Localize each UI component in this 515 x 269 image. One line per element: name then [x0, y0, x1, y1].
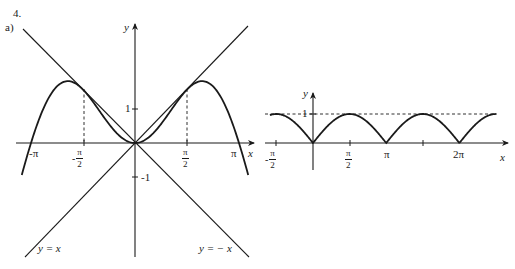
fraction-denominator: 2: [346, 160, 351, 170]
right-x-axis-label: x: [500, 152, 505, 163]
tick-label-y-one: 1: [125, 103, 131, 114]
annotation-y-equals-neg-x: y = − x: [199, 243, 232, 254]
minus-sign: -: [72, 153, 75, 164]
fraction-denominator: 2: [77, 159, 82, 169]
annotation-y-equals-x: y = x: [38, 243, 61, 254]
left-chart: [16, 24, 254, 257]
left-x-axis-label: x: [248, 148, 253, 159]
right-tick-label-2pi: 2π: [453, 149, 464, 160]
tick-label-neg-half-pi: - π 2: [72, 148, 83, 169]
right-tick-label-pi: π: [384, 149, 390, 160]
fraction-denominator: 2: [270, 160, 275, 170]
tick-label-half-pi: π 2: [182, 148, 189, 169]
right-y-axis-label: y: [303, 88, 308, 99]
fraction-numerator: π: [345, 149, 352, 160]
fraction-numerator: π: [76, 148, 83, 159]
right-tick-label-y-one: 1: [302, 108, 308, 119]
tick-label-y-neg-one: -1: [141, 172, 150, 183]
right-tick-label-neg-half-pi: - π 2: [265, 149, 276, 170]
minus-sign: -: [265, 154, 268, 165]
figure-canvas: [0, 0, 515, 269]
left-y-axis-label: y: [124, 22, 129, 33]
fraction-numerator: π: [182, 148, 189, 159]
fraction-numerator: π: [269, 149, 276, 160]
tick-label-pi: π: [231, 148, 237, 159]
right-tick-label-half-pi: π 2: [345, 149, 352, 170]
fraction-denominator: 2: [183, 159, 188, 169]
tick-label-neg-pi: -π: [29, 148, 38, 159]
